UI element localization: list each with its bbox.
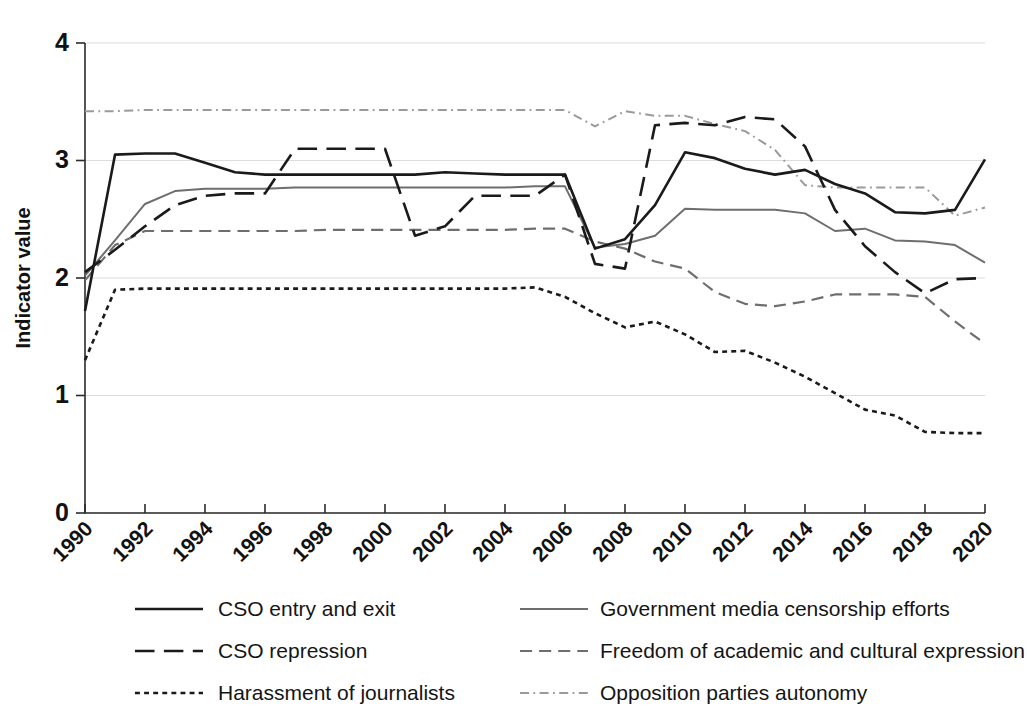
x-tick-label: 1994 <box>168 516 218 566</box>
x-tick-label: 2004 <box>468 516 518 566</box>
legend-item-label: Government media censorship efforts <box>600 597 950 620</box>
x-tick-label: 2018 <box>888 516 938 566</box>
x-tick-label: 1992 <box>108 517 157 566</box>
y-tick-label: 1 <box>55 380 69 408</box>
legend-item-label: CSO repression <box>218 639 367 662</box>
legend-item-label: Harassment of journalists <box>218 681 455 704</box>
x-tick-label: 2002 <box>408 517 457 566</box>
x-tick-label: 2020 <box>948 517 997 566</box>
x-tick-label: 2010 <box>648 517 697 566</box>
y-tick-label: 4 <box>55 28 69 56</box>
x-tick-label: 2000 <box>348 517 397 566</box>
line-chart-canvas: 01234 1990199219941996199820002002200420… <box>0 0 1027 728</box>
series-line <box>85 229 985 344</box>
x-tick-label: 1996 <box>228 517 277 566</box>
y-tick-label: 2 <box>55 263 69 291</box>
legend-item-label: Freedom of academic and cultural express… <box>600 639 1025 662</box>
y-tick-label: 0 <box>55 498 69 526</box>
x-tick-label: 2014 <box>768 516 818 566</box>
y-axis-label: Indicator value <box>12 207 34 348</box>
x-tick-label: 2012 <box>708 517 757 566</box>
y-axis-ticks: 01234 <box>55 28 85 526</box>
x-tick-label: 1998 <box>288 516 338 566</box>
series-line <box>85 287 985 433</box>
x-tick-label: 2016 <box>828 517 877 566</box>
x-tick-label: 2006 <box>528 517 577 566</box>
grid-lines <box>85 43 985 513</box>
chart-figure: 01234 1990199219941996199820002002200420… <box>0 0 1027 728</box>
data-series <box>85 110 985 433</box>
legend-item-label: CSO entry and exit <box>218 597 396 620</box>
legend-item-label: Opposition parties autonomy <box>600 681 868 704</box>
chart-legend: CSO entry and exitGovernment media censo… <box>135 597 1025 704</box>
series-line <box>85 117 985 293</box>
x-tick-label: 2008 <box>588 516 638 566</box>
series-line <box>85 110 985 216</box>
y-tick-label: 3 <box>55 145 69 173</box>
